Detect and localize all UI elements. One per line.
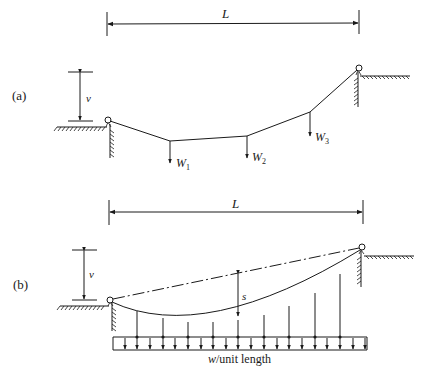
load-label-w2: W2 [252, 150, 266, 166]
panel-b [57, 200, 414, 350]
chord-line [113, 248, 359, 299]
span-dimension-a [107, 10, 359, 36]
load-intensity-label: w/unit length [208, 352, 271, 366]
cable-diagram: (a) L v W1 W2 W3 [0, 0, 430, 373]
span-label-a: L [221, 6, 229, 21]
span-label-b: L [231, 196, 239, 211]
right-support-a [354, 65, 410, 107]
sag-label-a: v [86, 92, 91, 104]
load-label-w3: W3 [315, 130, 329, 146]
cable-curve-b [112, 250, 360, 315]
left-support-b [57, 297, 116, 331]
panel-a [54, 10, 410, 163]
left-support-a [54, 117, 114, 158]
right-support-b [357, 244, 414, 287]
load-label-w1: W1 [176, 156, 190, 172]
sag-label-b: v [89, 268, 94, 280]
panel-b-labels: (b) L v s w/unit length [13, 196, 271, 366]
panel-b-label: (b) [13, 277, 28, 292]
distributed-load [113, 335, 367, 350]
panel-a-label: (a) [12, 88, 26, 103]
deflection-label: s [242, 290, 246, 302]
